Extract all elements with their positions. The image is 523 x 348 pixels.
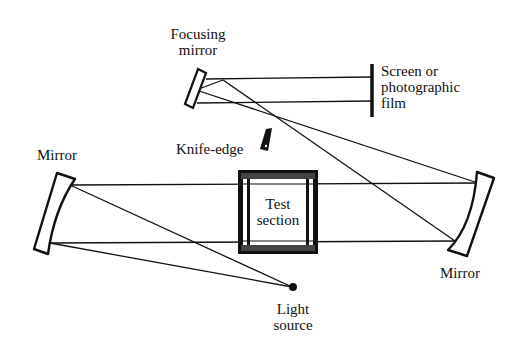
ray-to-screen-top [206,77,372,79]
focusing-mirror-label-line1: Focusing [165,26,231,42]
light-source-label-line2: source [263,317,323,333]
light-source [289,283,297,291]
screen-label-line2: photographic [381,79,460,95]
screen-label-line3: film [381,95,460,111]
screen-label-line1: Screen or [381,63,460,79]
test-section-label: Test section [251,196,305,228]
focusing-mirror-label-line2: mirror [165,42,231,58]
focusing-mirror [185,69,206,108]
knife-edge-label: Knife-edge [176,141,243,157]
ray-to-screen-bottom [197,101,372,103]
screen-label: Screen or photographic film [381,63,460,111]
mirror-left [34,173,75,254]
mirror-right [448,172,494,256]
focusing-mirror-label: Focusing mirror [165,26,231,58]
knife-edge [260,128,272,151]
mirror-right-label: Mirror [440,265,480,281]
light-source-label: Light source [263,301,323,333]
mirror-left-label: Mirror [37,147,77,163]
schlieren-diagram [0,0,523,348]
light-source-label-line1: Light [263,301,323,317]
test-section-label-line2: section [251,212,305,228]
test-section-label-line1: Test [251,196,305,212]
